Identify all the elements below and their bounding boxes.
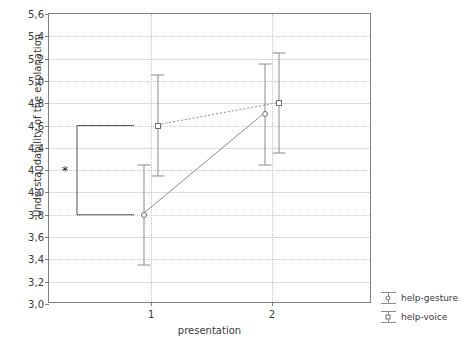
legend-item-help-gesture[interactable]: help-gesture (380, 288, 462, 307)
y-tick-label: 3,0 (28, 299, 44, 310)
x-tick-label: 1 (148, 309, 154, 320)
legend-marker-circle-icon (380, 291, 397, 305)
legend-item-help-voice[interactable]: help-voice (380, 307, 462, 326)
significance-bracket-path (77, 126, 134, 215)
legend-label: help-voice (401, 312, 447, 322)
y-tick-label: 4,6 (28, 120, 44, 131)
y-tick-label: 3,6 (28, 232, 44, 243)
legend-marker-square-icon (380, 310, 397, 324)
y-tick-label: 3,4 (28, 254, 44, 265)
y-tick-label: 5,6 (28, 9, 44, 20)
plot-area: 5,65,45,25,04,84,64,44,24,03,83,63,43,23… (48, 13, 371, 303)
chart-screenshot: Understandability of the explanation 5,6… (0, 0, 465, 348)
x-axis-title: presentation (48, 325, 371, 336)
y-tick-label: 4,4 (28, 142, 44, 153)
y-tick-mark (45, 304, 49, 305)
y-tick-label: 5,2 (28, 53, 44, 64)
legend-label: help-gesture (401, 293, 458, 303)
significance-bracket (49, 14, 372, 304)
significance-asterisk-label: * (62, 164, 69, 177)
y-tick-label: 3,2 (28, 276, 44, 287)
y-tick-label: 5,0 (28, 75, 44, 86)
x-tick-label: 2 (269, 309, 275, 320)
y-tick-label: 4,8 (28, 98, 44, 109)
y-tick-label: 5,4 (28, 31, 44, 42)
y-tick-label: 3,8 (28, 209, 44, 220)
y-tick-label: 4,2 (28, 165, 44, 176)
chart-legend: help-gesturehelp-voice (380, 288, 462, 326)
y-tick-label: 4,0 (28, 187, 44, 198)
